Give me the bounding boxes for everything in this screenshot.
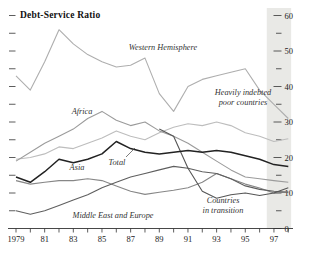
x-axis-label: 83: [69, 234, 78, 244]
y-axis-right-label: 60: [285, 11, 294, 21]
x-axis-label: 1979: [8, 234, 25, 244]
x-axis-label: 93: [212, 234, 221, 244]
label-hipc: poor countries: [218, 98, 268, 107]
x-axis-label: 87: [126, 234, 135, 244]
label-asia: Asia: [69, 163, 85, 172]
x-axis-label: 91: [184, 234, 193, 244]
label-western-hemisphere: Western Hemisphere: [129, 43, 198, 52]
label-countries-transition: Countries: [207, 196, 240, 205]
chart-canvas: 01020304050601979818385878991939597Weste…: [0, 0, 310, 260]
series-line-asia: [16, 174, 288, 195]
y-axis-right-label: 30: [285, 117, 294, 127]
label-hipc: Heavily indebted: [214, 88, 272, 97]
label-total: Total: [109, 158, 126, 167]
x-axis-label: 85: [98, 234, 107, 244]
x-axis-label: 89: [155, 234, 164, 244]
y-axis-right-label: 10: [285, 188, 294, 198]
label-africa: Africa: [71, 107, 93, 116]
label-countries-transition: in transition: [203, 206, 244, 215]
x-axis-label: 97: [270, 234, 279, 244]
x-axis-label: 81: [40, 234, 49, 244]
y-axis-right-label: 40: [285, 82, 294, 92]
series-line-middle-east-and-europe: [16, 166, 288, 214]
debt-service-ratio-chart: Debt-Service Ratio 010203040506019798183…: [0, 0, 310, 260]
label-middle-east-europe: Middle East and Europe: [71, 211, 153, 220]
x-axis-label: 95: [241, 234, 250, 244]
total-label-pointer: [126, 148, 135, 157]
y-axis-right-label: 20: [285, 153, 294, 163]
y-axis-right-label: 50: [285, 46, 294, 56]
